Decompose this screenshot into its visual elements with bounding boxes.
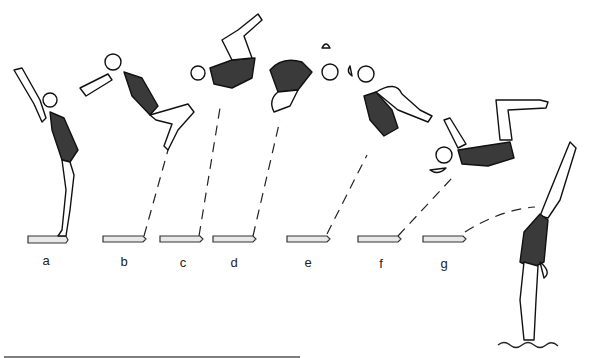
- diver-figure-b: [80, 54, 194, 150]
- stage-label-g: g: [440, 256, 447, 271]
- dive-sequence-illustration: [0, 0, 591, 358]
- diver-figure-entry: [520, 142, 576, 340]
- diver-figure-d: [270, 44, 338, 112]
- trajectory-lines: [144, 108, 535, 236]
- diver-figure-c: [191, 14, 262, 88]
- board-g: [423, 236, 466, 242]
- stage-label-c: c: [180, 255, 187, 270]
- stage-label-a: a: [42, 253, 49, 268]
- diver-figure-e: [348, 66, 432, 136]
- board-e: [287, 236, 330, 242]
- board-b: [103, 236, 146, 242]
- board-c: [160, 236, 203, 242]
- diver-figure-f: [430, 100, 548, 173]
- stage-label-d: d: [230, 255, 237, 270]
- water-surface-icon: [498, 343, 558, 348]
- board-d: [213, 236, 256, 242]
- diver-figure-a: [14, 68, 78, 236]
- board-f: [358, 236, 401, 242]
- stage-label-e: e: [304, 255, 311, 270]
- stage-label-b: b: [120, 254, 127, 269]
- board-a: [28, 236, 68, 243]
- diving-boards: [28, 236, 466, 243]
- stage-label-f: f: [379, 256, 383, 271]
